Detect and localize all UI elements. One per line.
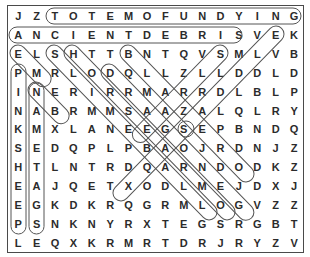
grid-cell[interactable]: P (119, 139, 137, 158)
grid-cell[interactable]: Z (175, 64, 193, 83)
grid-cell[interactable]: L (211, 64, 229, 83)
grid-cell[interactable]: R (193, 233, 211, 252)
grid-cell[interactable]: A (27, 101, 45, 120)
grid-cell[interactable]: I (248, 7, 266, 26)
grid-cell[interactable]: R (119, 82, 137, 101)
grid-cell[interactable]: L (46, 158, 64, 177)
grid-cell[interactable]: Z (266, 195, 284, 214)
grid-cell[interactable]: R (175, 158, 193, 177)
grid-cell[interactable]: A (83, 120, 101, 139)
grid-cell[interactable]: V (266, 45, 284, 64)
grid-cell[interactable]: Q (64, 139, 82, 158)
grid-cell[interactable]: O (138, 7, 156, 26)
grid-cell[interactable]: O (175, 139, 193, 158)
grid-cell[interactable]: D (64, 195, 82, 214)
grid-cell[interactable]: T (83, 7, 101, 26)
grid-cell[interactable]: E (27, 233, 45, 252)
grid-cell[interactable]: T (101, 45, 119, 64)
grid-cell[interactable]: L (193, 64, 211, 83)
grid-cell[interactable]: J (46, 177, 64, 196)
grid-cell[interactable]: T (83, 45, 101, 64)
grid-cell[interactable]: Y (285, 101, 303, 120)
grid-cell[interactable]: B (266, 214, 284, 233)
grid-cell[interactable]: Z (285, 195, 303, 214)
grid-cell[interactable]: E (119, 120, 137, 139)
grid-cell[interactable]: X (64, 233, 82, 252)
grid-cell[interactable]: G (285, 7, 303, 26)
grid-cell[interactable]: L (9, 233, 27, 252)
grid-cell[interactable]: L (138, 64, 156, 83)
grid-cell[interactable]: A (27, 177, 45, 196)
grid-cell[interactable]: Z (175, 101, 193, 120)
grid-cell[interactable]: R (101, 82, 119, 101)
grid-cell[interactable]: E (156, 26, 174, 45)
grid-cell[interactable]: N (27, 82, 45, 101)
grid-cell[interactable]: D (138, 26, 156, 45)
grid-cell[interactable]: Z (285, 139, 303, 158)
grid-cell[interactable]: R (119, 214, 137, 233)
grid-cell[interactable]: H (9, 158, 27, 177)
grid-cell[interactable]: R (211, 139, 229, 158)
grid-cell[interactable]: K (266, 158, 284, 177)
grid-cell[interactable]: E (138, 120, 156, 139)
grid-cell[interactable]: P (285, 82, 303, 101)
grid-cell[interactable]: L (193, 195, 211, 214)
grid-cell[interactable]: D (101, 64, 119, 83)
grid-cell[interactable]: D (211, 7, 229, 26)
grid-cell[interactable]: M (230, 45, 248, 64)
grid-cell[interactable]: L (248, 101, 266, 120)
grid-cell[interactable]: O (230, 158, 248, 177)
grid-cell[interactable]: R (101, 158, 119, 177)
grid-cell[interactable]: P (9, 214, 27, 233)
grid-cell[interactable]: Q (230, 101, 248, 120)
grid-cell[interactable]: G (138, 195, 156, 214)
grid-cell[interactable]: J (285, 177, 303, 196)
grid-cell[interactable]: Y (101, 214, 119, 233)
grid-cell[interactable]: M (193, 177, 211, 196)
grid-cell[interactable]: N (27, 26, 45, 45)
grid-cell[interactable]: R (156, 195, 174, 214)
grid-cell[interactable]: Z (27, 7, 45, 26)
grid-cell[interactable]: I (9, 82, 27, 101)
grid-cell[interactable]: L (248, 45, 266, 64)
grid-cell[interactable]: L (64, 120, 82, 139)
grid-cell[interactable]: C (46, 26, 64, 45)
grid-cell[interactable]: N (46, 214, 64, 233)
grid-cell[interactable]: T (119, 26, 137, 45)
grid-cell[interactable]: E (101, 7, 119, 26)
grid-cell[interactable]: V (193, 45, 211, 64)
grid-cell[interactable]: R (266, 101, 284, 120)
grid-cell[interactable]: Y (248, 233, 266, 252)
grid-cell[interactable]: O (64, 7, 82, 26)
grid-cell[interactable]: A (156, 158, 174, 177)
grid-cell[interactable]: L (64, 64, 82, 83)
grid-cell[interactable]: K (64, 214, 82, 233)
grid-cell[interactable]: E (83, 26, 101, 45)
grid-cell[interactable]: I (83, 82, 101, 101)
grid-cell[interactable]: R (193, 26, 211, 45)
grid-cell[interactable]: K (83, 233, 101, 252)
grid-cell[interactable]: T (156, 214, 174, 233)
grid-cell[interactable]: I (64, 26, 82, 45)
grid-cell[interactable]: Z (285, 158, 303, 177)
grid-cell[interactable]: O (211, 195, 229, 214)
grid-cell[interactable]: D (156, 177, 174, 196)
grid-cell[interactable]: L (156, 64, 174, 83)
grid-cell[interactable]: D (46, 139, 64, 158)
grid-cell[interactable]: D (211, 82, 229, 101)
grid-cell[interactable]: L (27, 45, 45, 64)
grid-cell[interactable]: R (64, 82, 82, 101)
grid-cell[interactable]: M (83, 101, 101, 120)
grid-cell[interactable]: Z (266, 233, 284, 252)
grid-cell[interactable]: E (9, 177, 27, 196)
grid-cell[interactable]: K (285, 26, 303, 45)
grid-cell[interactable]: S (9, 139, 27, 158)
grid-cell[interactable]: Q (64, 177, 82, 196)
grid-cell[interactable]: V (248, 195, 266, 214)
grid-cell[interactable]: U (175, 7, 193, 26)
grid-cell[interactable]: S (175, 120, 193, 139)
grid-cell[interactable]: B (175, 26, 193, 45)
grid-cell[interactable]: T (83, 158, 101, 177)
grid-cell[interactable]: M (27, 64, 45, 83)
grid-cell[interactable]: A (156, 101, 174, 120)
